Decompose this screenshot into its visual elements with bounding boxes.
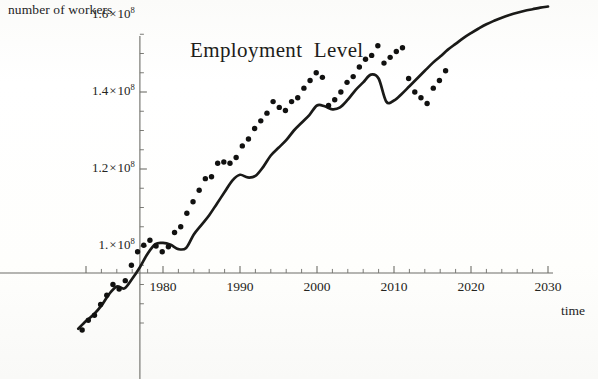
- data-point: [350, 74, 355, 79]
- figure-container: number of workers time Employment Level …: [0, 0, 598, 379]
- data-point: [79, 327, 84, 332]
- data-point: [338, 89, 343, 94]
- x-tick-label: 2010: [374, 279, 414, 295]
- x-tick-label: 1980: [143, 279, 183, 295]
- data-point: [203, 176, 208, 181]
- x-tick-label: 2020: [451, 279, 491, 295]
- data-point: [184, 211, 189, 216]
- data-point: [141, 243, 146, 248]
- data-point: [104, 293, 109, 298]
- data-point: [215, 161, 220, 166]
- data-point: [153, 243, 158, 248]
- data-point: [412, 89, 417, 94]
- data-point: [357, 64, 362, 69]
- x-tick-label: 2000: [297, 279, 337, 295]
- data-point: [443, 68, 448, 73]
- data-point: [116, 286, 121, 291]
- data-point: [301, 85, 306, 90]
- data-point: [252, 126, 257, 131]
- data-point: [196, 187, 201, 192]
- chart-title: Employment Level: [190, 38, 364, 63]
- multiplication-sign-icon: ×: [108, 160, 117, 175]
- data-point: [418, 95, 423, 100]
- data-point: [295, 95, 300, 100]
- data-point: [209, 174, 214, 179]
- data-point: [375, 43, 380, 48]
- x-tick-label: 2030: [528, 279, 568, 295]
- x-tick-label: 1990: [220, 279, 260, 295]
- y-tick-label: 1.6×108: [92, 6, 135, 22]
- data-point: [363, 57, 368, 62]
- y-tick-mantissa: 1.: [99, 237, 109, 252]
- data-point: [172, 230, 177, 235]
- data-point: [264, 110, 269, 115]
- data-point: [227, 161, 232, 166]
- data-point: [437, 78, 442, 83]
- data-point: [258, 118, 263, 123]
- data-point: [129, 263, 134, 268]
- y-tick-label: 1.2×108: [92, 160, 135, 176]
- data-point: [240, 143, 245, 148]
- data-point: [283, 108, 288, 113]
- data-point: [190, 199, 195, 204]
- y-tick-mantissa: 1.4: [92, 83, 108, 98]
- multiplication-sign-icon: ×: [108, 6, 117, 21]
- data-point: [307, 78, 312, 83]
- data-point: [400, 45, 405, 50]
- data-point: [98, 302, 103, 307]
- y-tick-label: 1.×108: [99, 237, 135, 253]
- data-point: [135, 249, 140, 254]
- data-point: [320, 75, 325, 80]
- data-point: [166, 244, 171, 249]
- data-point: [92, 313, 97, 318]
- y-tick-label: 1.4×108: [92, 83, 135, 99]
- data-point: [406, 76, 411, 81]
- x-axis-caption: time: [561, 303, 585, 319]
- y-tick-exponent: 8: [131, 82, 135, 92]
- data-point: [110, 282, 115, 287]
- data-point: [332, 97, 337, 102]
- data-point: [381, 60, 386, 65]
- data-point: [369, 53, 374, 58]
- data-point: [147, 238, 152, 243]
- data-point: [221, 159, 226, 164]
- data-point: [178, 224, 183, 229]
- multiplication-sign-icon: ×: [108, 237, 117, 252]
- data-point: [289, 99, 294, 104]
- data-point: [314, 70, 319, 75]
- data-point: [270, 99, 275, 104]
- y-tick-mantissa: 1.2: [92, 160, 108, 175]
- multiplication-sign-icon: ×: [108, 83, 117, 98]
- y-tick-exponent: 8: [131, 5, 135, 15]
- y-tick-mantissa: 1.6: [92, 6, 108, 21]
- y-tick-base: 10: [118, 6, 131, 21]
- data-point: [344, 80, 349, 85]
- data-point: [233, 155, 238, 160]
- y-tick-exponent: 8: [131, 236, 135, 246]
- data-point: [394, 49, 399, 54]
- data-point: [86, 318, 91, 323]
- data-point: [326, 103, 331, 108]
- axes-group: [0, 34, 553, 379]
- y-tick-exponent: 8: [131, 159, 135, 169]
- y-tick-base: 10: [118, 237, 131, 252]
- y-tick-base: 10: [118, 83, 131, 98]
- data-point: [246, 136, 251, 141]
- data-point: [123, 278, 128, 283]
- y-tick-base: 10: [118, 160, 131, 175]
- data-point: [277, 105, 282, 110]
- data-point: [387, 55, 392, 60]
- data-point: [431, 85, 436, 90]
- data-point: [160, 249, 165, 254]
- data-point: [424, 101, 429, 106]
